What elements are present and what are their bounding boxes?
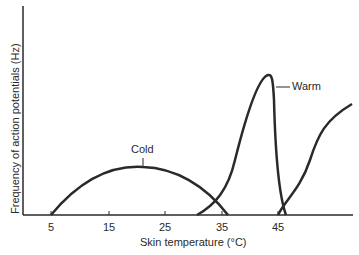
heat-curve [278, 104, 352, 215]
x-tick-label: 45 [272, 221, 284, 233]
warm-label: Warm [292, 80, 321, 92]
chart-canvas [0, 0, 359, 255]
cold-label: Cold [131, 143, 154, 155]
x-tick-label: 5 [48, 221, 54, 233]
x-tick-label: 25 [159, 221, 171, 233]
warm-curve [197, 75, 286, 215]
y-axis-label: Frequency of action potentials (Hz) [9, 43, 21, 214]
x-tick-label: 35 [216, 221, 228, 233]
x-tick-label: 15 [103, 221, 115, 233]
cold-curve [51, 167, 228, 215]
x-axis-label: Skin temperature (°C) [140, 236, 247, 248]
